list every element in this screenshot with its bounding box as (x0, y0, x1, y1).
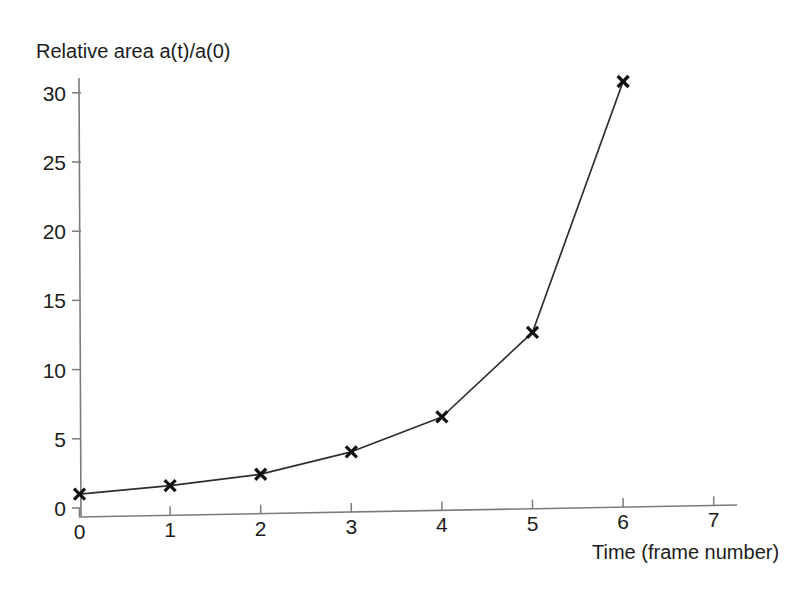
line-chart: Relative area a(t)/a(0) Time (frame numb… (0, 0, 798, 599)
x-tick-label: 4 (436, 513, 448, 536)
chart-figure: Relative area a(t)/a(0) Time (frame numb… (0, 0, 798, 599)
y-tick-label: 30 (43, 82, 66, 105)
y-tick-label: 5 (54, 428, 66, 451)
x-tick-label: 7 (708, 508, 720, 531)
y-tick-label: 20 (43, 220, 66, 243)
data-series-group (74, 76, 629, 500)
data-point-marker (436, 411, 447, 422)
y-tick-label: 0 (54, 497, 66, 520)
y-ticks-group: 051015202530 (43, 82, 81, 520)
y-axis-title: Relative area a(t)/a(0) (36, 40, 231, 62)
x-tick-label: 1 (164, 518, 176, 541)
x-axis-title: Time (frame number) (592, 541, 779, 563)
series-line (80, 82, 624, 495)
x-tick-label: 2 (255, 517, 267, 540)
y-tick-label: 10 (43, 359, 66, 382)
data-markers-group (74, 76, 629, 500)
x-tick-label: 5 (527, 512, 539, 535)
x-tick-label: 3 (345, 515, 357, 538)
y-axis-title-group: Relative area a(t)/a(0) (36, 40, 231, 62)
y-axis-line (79, 78, 81, 516)
y-tick-label: 25 (43, 151, 66, 174)
x-tick-label: 0 (74, 520, 86, 543)
x-ticks-group: 01234567 (74, 496, 720, 543)
x-axis-line (79, 505, 737, 517)
y-tick-label: 15 (43, 289, 66, 312)
data-point-marker (346, 446, 357, 457)
x-axis-title-group: Time (frame number) (592, 541, 779, 563)
axes (79, 78, 737, 517)
x-tick-label: 6 (617, 510, 629, 533)
data-point-marker (618, 76, 629, 87)
data-point-marker (527, 327, 538, 338)
